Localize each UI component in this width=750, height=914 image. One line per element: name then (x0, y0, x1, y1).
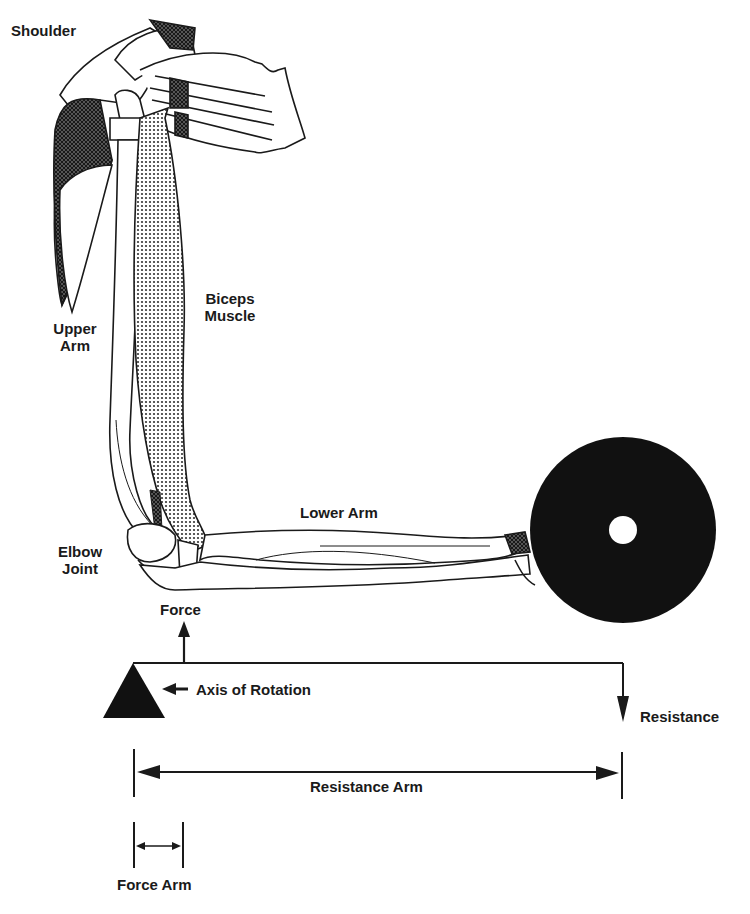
label-biceps-line2: Muscle (199, 307, 261, 324)
label-upper-arm: Upper Arm (46, 320, 104, 354)
label-elbow-line1: Elbow (54, 543, 106, 560)
arrow-down-icon (617, 663, 629, 722)
label-force-arm: Force Arm (117, 876, 191, 893)
label-axis-of-rotation: Axis of Rotation (196, 681, 311, 698)
label-force: Force (160, 601, 201, 618)
label-elbow-line2: Joint (54, 560, 106, 577)
arrow-up-icon (178, 621, 190, 663)
label-upper-arm-line1: Upper (46, 320, 104, 337)
arm-illustration (0, 0, 750, 914)
label-resistance: Resistance (640, 708, 719, 725)
biceps-muscle (134, 108, 208, 552)
label-lower-arm: Lower Arm (300, 504, 378, 521)
label-biceps-line1: Biceps (199, 290, 261, 307)
label-shoulder: Shoulder (11, 22, 76, 39)
label-resistance-arm: Resistance Arm (310, 778, 423, 795)
label-upper-arm-line2: Arm (46, 337, 104, 354)
triangle-fulcrum-icon (103, 663, 165, 718)
label-elbow-joint: Elbow Joint (54, 543, 106, 577)
force-arm-dimension (134, 822, 183, 868)
label-biceps-muscle: Biceps Muscle (199, 290, 261, 324)
lever-diagram: Shoulder Upper Arm Biceps Muscle Lower A… (0, 0, 750, 914)
weight-plate-icon (530, 437, 716, 623)
arrow-left-icon (162, 683, 188, 695)
